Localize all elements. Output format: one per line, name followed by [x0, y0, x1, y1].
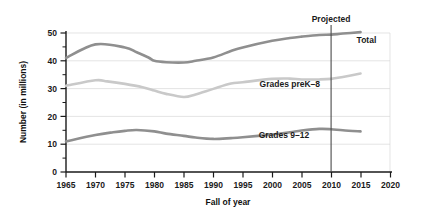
x-tick-label-1970: 1970 — [86, 180, 105, 190]
projected-annotation-label: Projected — [312, 14, 351, 24]
x-tick-label-1965: 1965 — [57, 180, 76, 190]
y-tick-label-50: 50 — [48, 28, 58, 38]
x-axis-title: Fall of year — [206, 197, 252, 207]
y-tick-label-0: 0 — [52, 167, 57, 177]
x-tick-label-2020: 2020 — [381, 180, 400, 190]
y-tick-label-40: 40 — [48, 56, 58, 66]
x-tick-label-2010: 2010 — [322, 180, 341, 190]
chart-figure: 50 40 30 20 10 0 1965 1970 1975 — [0, 0, 434, 220]
x-tick-label-1980: 1980 — [145, 180, 164, 190]
series-label-total: Total — [357, 35, 377, 45]
plot-area-background — [66, 33, 390, 172]
x-tick-label-1985: 1985 — [175, 180, 194, 190]
y-tick-label-30: 30 — [48, 84, 58, 94]
x-tick-label-1995: 1995 — [234, 180, 253, 190]
x-tick-label-1975: 1975 — [116, 180, 135, 190]
x-tick-label-2000: 2000 — [263, 180, 282, 190]
y-axis-title: Number (in millions) — [18, 61, 28, 143]
series-label-grades-9-12: Grades 9–12 — [259, 130, 310, 140]
y-tick-label-10: 10 — [48, 139, 58, 149]
x-tick-label-2005: 2005 — [293, 180, 312, 190]
y-tick-label-20: 20 — [48, 112, 58, 122]
line-chart: 50 40 30 20 10 0 1965 1970 1975 — [0, 0, 434, 220]
x-tick-label-1990: 1990 — [204, 180, 223, 190]
series-label-grades-prek-8: Grades preK–8 — [260, 79, 321, 89]
x-tick-label-2015: 2015 — [352, 180, 371, 190]
